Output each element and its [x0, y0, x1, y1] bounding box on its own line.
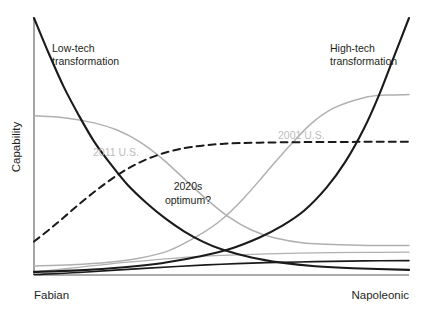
series-2020s-optimum [34, 142, 409, 242]
annotation-low-tech-line1: Low-tech [52, 42, 95, 54]
annotation-2001-us: 2001 U.S. [278, 129, 325, 141]
annotation-2011-us: 2011 U.S. [93, 146, 139, 158]
y-axis-label: Capability [10, 122, 22, 173]
annotation-low-tech-line2: transformation [52, 55, 119, 67]
annotations-group: Low-tech transformation High-tech transf… [52, 42, 397, 206]
series-2001-us [34, 95, 409, 266]
x-axis-left-label: Fabian [34, 289, 69, 301]
annotation-high-tech-line1: High-tech [330, 42, 375, 54]
chart-figure: Low-tech transformation High-tech transf… [0, 0, 424, 315]
annotation-high-tech-line2: transformation [330, 55, 397, 67]
annotation-2020s-optimum-line1: 2020s [174, 180, 203, 192]
axis-labels-group: Fabian Napoleonic Capability [10, 122, 409, 301]
annotation-2020s-optimum-line2: optimum? [165, 194, 211, 206]
x-axis-right-label: Napoleonic [351, 289, 409, 301]
capability-spectrum-chart: Low-tech transformation High-tech transf… [0, 0, 424, 315]
